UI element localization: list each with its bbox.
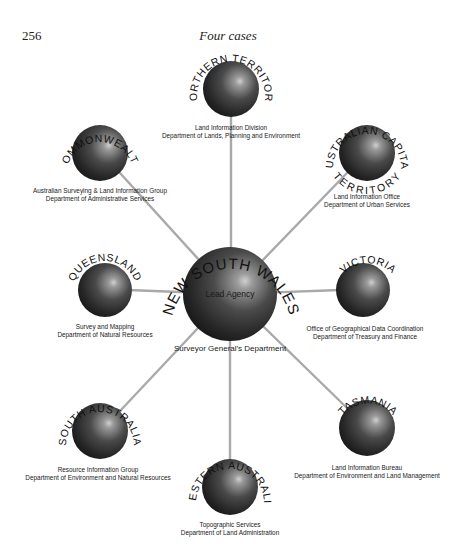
node-queensland: QUEENSLAND Survey and Mapping Department… bbox=[57, 251, 152, 339]
caption-south-australia-line2: Department of Environment and Natural Re… bbox=[25, 474, 170, 482]
caption-queensland-line1: Survey and Mapping bbox=[76, 323, 135, 331]
node-tasmania: TASMANIA Land Information Bureau Departm… bbox=[294, 393, 440, 480]
node-new-south-wales: NEW SOUTH WALES Lead Agency Surveyor Gen… bbox=[159, 247, 304, 353]
caption-victoria-line1: Office of Geographical Data Coordination bbox=[307, 325, 424, 333]
caption-victoria-line2: Department of Treasury and Finance bbox=[313, 333, 418, 341]
node-name-commonwealth: COMMONWEALTH bbox=[0, 0, 141, 166]
caption-commonwealth-line1: Australian Surveying & Land Information … bbox=[33, 187, 167, 195]
caption-western-australia-line2: Department of Land Administration bbox=[181, 529, 280, 537]
node-south-australia: SOUTH AUSTRALIA Resource Information Gro… bbox=[25, 402, 170, 482]
caption-act-line1: Land Information Office bbox=[334, 193, 401, 200]
caption-queensland-line2: Department of Natural Resources bbox=[57, 331, 152, 339]
lead-agency-label: Lead Agency bbox=[205, 289, 255, 299]
sphere-queensland bbox=[78, 263, 132, 317]
caption-western-australia-line1: Topographic Services bbox=[199, 521, 260, 529]
network-diagram: NEW SOUTH WALES Lead Agency Surveyor Gen… bbox=[0, 0, 456, 554]
node-commonwealth: COMMONWEALTH Australian Surveying & Land… bbox=[0, 0, 167, 203]
caption-tasmania-line2: Department of Environment and Land Manag… bbox=[294, 472, 440, 480]
caption-tasmania-line1: Land Information Bureau bbox=[332, 464, 403, 471]
caption-south-australia-line1: Resource Information Group bbox=[58, 466, 139, 474]
caption-northern-territory-line1: Land Information Division bbox=[195, 124, 268, 131]
caption-act-line2: Department of Urban Services bbox=[324, 201, 410, 209]
node-act: AUSTRALIAN CAPITAL TERRITORY Land Inform… bbox=[0, 0, 411, 209]
node-northern-territory: NORTHERN TERRITORY Land Information Divi… bbox=[0, 0, 300, 140]
caption-commonwealth-line2: Department of Administrative Services bbox=[46, 195, 154, 203]
node-victoria: VICTORIA Office of Geographical Data Coo… bbox=[307, 253, 424, 341]
caption-northern-territory-line2: Department of Lands, Planning and Enviro… bbox=[162, 132, 300, 140]
caption-new-south-wales: Surveyor General's Department bbox=[174, 344, 287, 353]
